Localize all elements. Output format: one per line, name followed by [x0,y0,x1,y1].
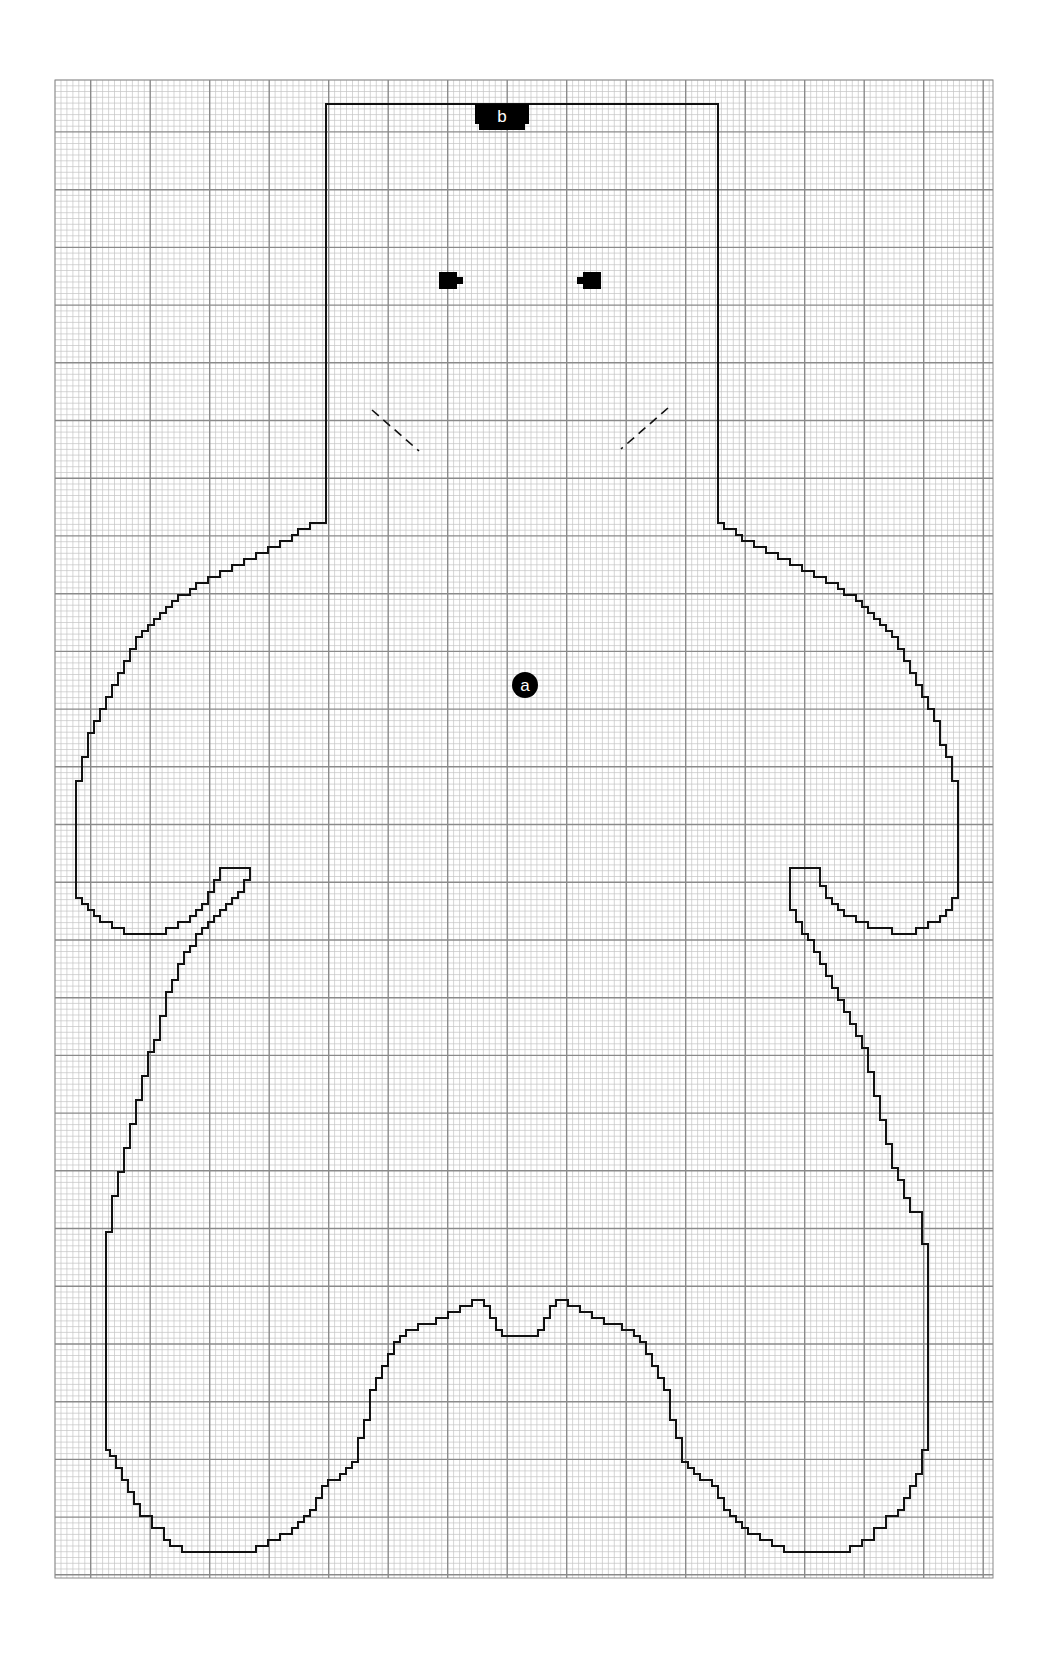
pattern-chart: ba [0,0,1059,1672]
right-dashed-guide [621,408,668,449]
marker-b: b [475,104,529,130]
right-eye [577,272,601,289]
marker-label: a [520,676,530,695]
marker-a: a [512,672,538,698]
eye-placements [439,272,601,289]
marker-label: b [497,107,506,126]
body-outline [76,104,958,1552]
